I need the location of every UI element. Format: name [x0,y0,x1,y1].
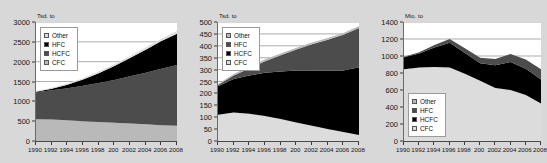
y-axis-tick-label: 3000 [6,18,30,27]
chart-panel-middle: Tsd. to500450400350300250200150100500199… [186,4,362,159]
legend-swatch-icon [226,42,231,47]
y-axis-tick-label: 300 [188,65,212,74]
chart-legend: OtherHFCHCFCCFC [40,27,78,71]
chart-unit-label: Mio. to [405,13,423,19]
x-axis-tick-label: 200 [290,146,300,153]
x-axis-tick-mark [510,142,511,145]
x-axis-tick-label: 1998 [457,146,471,153]
legend-item: Other [412,97,441,106]
x-axis-tick-label: 1992 [226,146,240,153]
legend-item: CFC [412,124,441,133]
x-axis-tick-mark [479,142,480,145]
x-axis-tick-mark [433,142,434,145]
x-axis-line [217,141,359,142]
y-axis-tick-label: 1400 [370,18,398,27]
x-axis-tick-label: 2006 [335,146,349,153]
legend-swatch-icon [44,51,49,56]
y-axis-tick-label: 1000 [370,52,398,61]
y-axis-tick-label: 450 [188,29,212,38]
x-axis-tick-label: 200 [108,146,118,153]
x-axis-tick-label: 2008 [351,146,365,153]
x-axis-tick-mark [233,142,234,145]
y-axis-tick-label: 200 [370,120,398,129]
y-axis-tick-mark [400,107,403,108]
legend-label: HFC [52,40,65,49]
legend-item: HCFC [226,49,255,58]
x-axis-tick-label: 2006 [518,146,532,153]
x-axis-tick-label: 2002 [122,146,136,153]
legend-label: HFC [234,40,247,49]
y-axis-tick-mark [400,73,403,74]
x-axis-tick-mark [248,142,249,145]
y-axis-tick-mark [214,69,217,70]
x-axis-tick-label: 1994 [59,146,73,153]
y-axis-tick-label: 250 [188,77,212,86]
y-axis-tick-label: 1000 [6,97,30,106]
y-axis-tick-label: 150 [188,101,212,110]
x-axis-tick-label: 1996 [257,146,271,153]
legend-label: HCFC [420,115,438,124]
chart-legend: OtherHFCHCFCCFC [408,93,446,137]
y-axis-tick-mark [400,39,403,40]
y-axis-tick-label: 800 [370,69,398,78]
legend-label: Other [234,31,250,40]
legend-swatch-icon [412,117,417,122]
x-axis-tick-label: 1996 [442,146,456,153]
x-axis-tick-mark [160,142,161,145]
y-axis-tick-label: 100 [188,113,212,122]
x-axis-tick-label: 2004 [320,146,334,153]
x-axis-tick-mark [98,142,99,145]
legend-swatch-icon [226,33,231,38]
x-axis-tick-mark [145,142,146,145]
x-axis-tick-label: 2006 [153,146,167,153]
legend-label: Other [420,97,436,106]
x-axis-tick-label: 2002 [304,146,318,153]
y-axis-tick-label: 2000 [6,57,30,66]
y-axis-tick-label: 500 [6,117,30,126]
chart-unit-label: Tsd. to [219,13,237,19]
y-axis-tick-label: 0 [370,137,398,146]
chart-legend: OtherHFCHCFCCFC [222,27,260,71]
legend-item: HFC [44,40,73,49]
chart-panel-right: Mio. to140012001000800600400200019901992… [368,4,544,159]
y-axis-tick-label: 2500 [6,37,30,46]
y-axis-tick-mark [400,124,403,125]
x-axis-tick-mark [82,142,83,145]
legend-swatch-icon [412,126,417,131]
x-axis-tick-mark [66,142,67,145]
y-axis-tick-mark [400,22,403,23]
y-axis-tick-label: 400 [188,41,212,50]
x-axis-tick-label: 1990 [396,146,410,153]
x-axis-tick-label: 1996 [75,146,89,153]
x-axis-tick-label: 1992 [411,146,425,153]
x-axis-tick-label: 1998 [91,146,105,153]
legend-label: HCFC [234,49,252,58]
legend-label: CFC [234,58,247,67]
x-axis-tick-mark [494,142,495,145]
x-axis-tick-mark [280,142,281,145]
x-axis-tick-mark [176,142,177,145]
legend-label: Other [52,31,68,40]
y-axis-tick-mark [32,41,35,42]
x-axis-tick-label: 1998 [273,146,287,153]
y-axis-tick-mark [400,56,403,57]
x-axis-tick-mark [358,142,359,145]
y-axis-tick-label: 200 [188,89,212,98]
legend-item: HCFC [412,115,441,124]
y-axis-tick-mark [214,45,217,46]
y-axis-tick-mark [32,101,35,102]
y-axis-tick-mark [32,121,35,122]
x-axis-tick-label: 1990 [28,146,42,153]
y-axis-tick-mark [214,129,217,130]
x-axis-tick-mark [311,142,312,145]
chart-panel-left: Tsd. to300025002000150010005000199019921… [4,4,180,159]
x-axis-tick-mark [295,142,296,145]
legend-label: HFC [420,106,433,115]
legend-item: HCFC [44,49,73,58]
x-axis-tick-mark [217,142,218,145]
x-axis-tick-mark [525,142,526,145]
x-axis-tick-label: 1992 [44,146,58,153]
y-axis-tick-mark [214,93,217,94]
y-axis-tick-label: 50 [188,125,212,134]
y-axis-tick-mark [32,81,35,82]
